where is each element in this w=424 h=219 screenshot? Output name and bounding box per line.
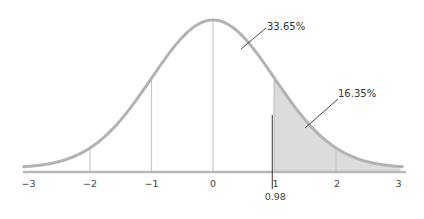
normal-distribution-chart: −3−2−10123 0.98 33.65% 16.35% [0,0,424,219]
x-tick-labels: −3−2−10123 [21,178,401,189]
x-tick-label: 0 [210,178,216,189]
x-tick-label: −2 [83,178,97,189]
x-tick-label: 3 [395,178,401,189]
x-tick-label: −1 [144,178,158,189]
annotation-label-tail-area: 16.35% [338,88,376,99]
x-tick-label: 2 [334,178,340,189]
annotation-label-center-area: 33.65% [267,21,305,32]
shaded-tail-area [273,76,400,172]
x-tick-label: 1 [272,178,278,189]
annotation-leader-line [305,99,338,128]
x-tick-label: −3 [21,178,35,189]
z-marker-label: 0.98 [265,191,286,202]
